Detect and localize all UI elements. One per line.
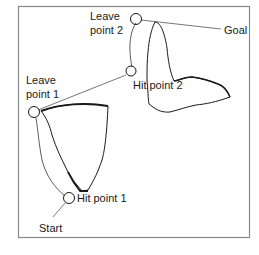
leave-point-2-label-line1: Leave xyxy=(90,10,120,22)
path-hit2-to-leave2 xyxy=(130,23,136,67)
bug-algorithm-diagram: Start Hit point 1 Leave point 1 Hit poin… xyxy=(0,0,259,255)
hit-point-2-label: Hit point 2 xyxy=(133,79,183,91)
hit-point-2-marker xyxy=(126,66,136,76)
leave-point-1-label-line2: point 1 xyxy=(26,88,59,100)
obstacle-1 xyxy=(41,104,108,191)
leave-point-2-label-line2: point 2 xyxy=(90,24,123,36)
obstacle-2 xyxy=(147,22,230,112)
leave-point-2-marker xyxy=(131,14,142,25)
path-start-to-hit1 xyxy=(53,203,65,217)
goal-label: Goal xyxy=(224,24,247,36)
leave-point-1-marker xyxy=(29,107,40,118)
hit-point-1-marker xyxy=(64,193,75,204)
start-label: Start xyxy=(39,222,62,234)
diagram-frame xyxy=(19,7,250,238)
hit-point-1-label: Hit point 1 xyxy=(77,192,127,204)
leave-point-1-label-line1: Leave xyxy=(26,74,56,86)
obstacle-1-bottom-edge xyxy=(68,172,88,191)
